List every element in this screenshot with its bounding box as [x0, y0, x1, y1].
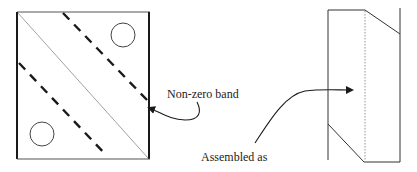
assembled-arrow — [255, 90, 352, 143]
assembled-storage-figure — [328, 8, 400, 162]
diagram-canvas: Non-zero band Assembled as — [0, 0, 417, 172]
assembled-label: Assembled as — [201, 150, 268, 164]
band-label: Non-zero band — [167, 87, 239, 101]
main-diagonal — [18, 13, 148, 158]
band-arrow — [149, 102, 199, 120]
storage-top-slant — [365, 10, 400, 34]
upper-right-circle — [111, 23, 135, 47]
lower-left-circle — [30, 122, 54, 146]
storage-bottom-slant — [328, 124, 364, 162]
lower-band-boundary — [19, 63, 107, 156]
upper-band-boundary — [63, 13, 148, 101]
matrix-square-figure — [17, 12, 150, 159]
